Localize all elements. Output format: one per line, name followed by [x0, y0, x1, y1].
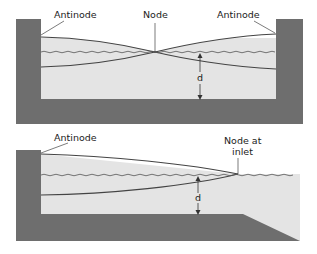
closed-basin-diagram: d Antinode Node Antinode: [16, 9, 303, 124]
node-at-inlet-label-line1: Node at: [224, 135, 262, 146]
node-at-inlet-label-line2: inlet: [232, 146, 253, 157]
antinode-leader: [41, 143, 68, 153]
antinode-label: Antinode: [54, 132, 97, 143]
open-basin-diagram: d Antinode Node at inlet: [16, 132, 300, 241]
depth-label: d: [197, 72, 203, 83]
seiche-diagram: d Antinode Node Antinode d Antin: [0, 0, 317, 254]
node-label: Node: [143, 9, 168, 20]
depth-label: d: [195, 192, 201, 203]
antinode-right-label: Antinode: [217, 9, 260, 20]
antinode-left-label: Antinode: [54, 9, 97, 20]
